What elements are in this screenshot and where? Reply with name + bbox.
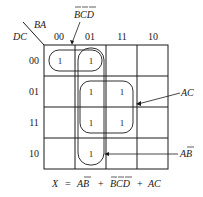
equation-term-ab: AB (76, 178, 89, 189)
col-header-00: 00 (54, 31, 64, 42)
row-variable-label: DC (12, 31, 27, 42)
cell-10-01: 1 (89, 149, 94, 159)
equation-lhs: X (51, 178, 59, 189)
cell-00-01: 1 (89, 56, 94, 66)
equation-plus-1: + (98, 178, 104, 189)
row-header-10: 10 (29, 148, 39, 159)
arrowhead-bcd (70, 40, 74, 45)
row-header-00: 00 (29, 55, 39, 66)
col-header-11: 11 (117, 31, 127, 42)
cell-01-01: 1 (89, 87, 94, 97)
kmap-grid (44, 45, 168, 169)
cell-11-11: 1 (120, 118, 125, 128)
cell-00-00: 1 (58, 56, 63, 66)
svg-text:BCD: BCD (74, 9, 95, 20)
row-header-11: 11 (29, 117, 39, 128)
cell-01-11: 1 (120, 87, 125, 97)
equation-term-ac: AC (147, 178, 161, 189)
col-header-10: 10 (148, 31, 158, 42)
karnaugh-map-diagram: BA DC 00 01 11 10 00 01 11 10 1 1 1 1 1 … (0, 0, 203, 197)
equation-plus-2: + (137, 178, 143, 189)
row-header-01: 01 (29, 86, 39, 97)
arrow-bcd (72, 22, 80, 43)
arrow-ac (138, 93, 180, 104)
equation-term-bcd: BCD (110, 178, 131, 189)
svg-text:AB: AB (179, 148, 192, 159)
col-variable-label: BA (34, 19, 47, 30)
equation-equals: = (65, 178, 71, 189)
group-label-ac: AC (180, 87, 194, 98)
group-label-bcd: BCD (74, 7, 96, 20)
group-label-ab: AB (179, 147, 194, 159)
cell-11-01: 1 (89, 118, 94, 128)
col-header-01: 01 (85, 31, 95, 42)
boolean-equation: X = AB + BCD + AC (51, 177, 161, 189)
